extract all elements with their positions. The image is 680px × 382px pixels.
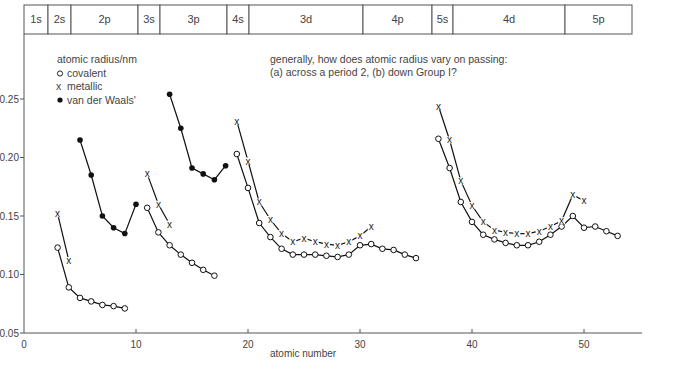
open-circle-marker (380, 246, 386, 252)
x-marker: x (335, 240, 340, 251)
open-circle-marker (156, 230, 162, 236)
open-circle-marker (346, 252, 352, 258)
filled-circle-marker (167, 92, 173, 98)
open-circle-marker (503, 240, 509, 246)
open-circle-marker (514, 242, 520, 248)
open-circle-marker (402, 252, 408, 258)
open-circle-marker (570, 213, 576, 219)
header-label-1s: 1s (30, 13, 42, 25)
x-tick-label: 20 (242, 339, 254, 350)
x-marker: x (369, 221, 374, 232)
open-circle-marker (447, 165, 453, 171)
orbital-header-row: 1s2s2p3s3p4s3d4p5s4d5p (24, 5, 632, 34)
open-circle-marker (604, 228, 610, 234)
header-label-3p: 3p (187, 13, 199, 25)
open-circle-marker (469, 219, 475, 225)
header-label-3s: 3s (143, 13, 155, 25)
x-axis-label: atomic number (270, 348, 337, 359)
open-circle-marker (536, 239, 542, 245)
open-circle-marker (100, 302, 106, 308)
question-line-1: generally, how does atomic radius vary o… (270, 53, 507, 65)
x-tick-label: 50 (578, 339, 590, 350)
series-line (237, 121, 371, 245)
open-circle-marker (548, 232, 554, 238)
x-tick-label: 0 (21, 339, 27, 350)
x-marker: x (503, 227, 508, 238)
open-circle-marker (167, 242, 173, 248)
open-circle-marker (55, 245, 61, 251)
header-label-4p: 4p (391, 13, 403, 25)
plot-area: xxxxxxxxxxxxxxxxxxxxxxxxxxxxxxxx (54, 92, 620, 312)
open-circle-marker (66, 285, 72, 291)
filled-circle-marker (212, 177, 218, 183)
open-circle-marker (234, 151, 240, 157)
open-circle-marker (357, 242, 363, 248)
legend-title: atomic radius/nm (57, 53, 137, 65)
x-marker: x (458, 175, 463, 186)
open-circle-marker (492, 237, 498, 243)
open-circle-marker (268, 234, 274, 240)
x-marker: x (156, 199, 161, 210)
x-marker: x (234, 116, 239, 127)
header-label-3d: 3d (300, 13, 312, 25)
y-ticks: 0.050.100.150.200.25 (0, 94, 24, 339)
filled-circle-marker (189, 165, 195, 171)
open-circle-marker (77, 295, 83, 301)
x-tick-label: 30 (354, 339, 366, 350)
open-circle-icon (57, 71, 62, 76)
header-label-5p: 5p (592, 13, 604, 25)
x-ticks: 01020304050 (21, 329, 590, 350)
filled-circle-marker (223, 163, 229, 169)
filled-circle-icon (57, 97, 62, 102)
filled-circle-marker (100, 213, 106, 219)
open-circle-marker (290, 252, 296, 258)
x-tick-label: 10 (130, 339, 142, 350)
x-marker: x (548, 221, 553, 232)
x-marker: x (346, 236, 351, 247)
question-line-2: (a) across a period 2, (b) down Group I? (270, 66, 457, 78)
filled-circle-marker (111, 225, 117, 231)
filled-circle-marker (178, 125, 184, 131)
open-circle-marker (144, 205, 150, 211)
x-marker: x (526, 228, 531, 239)
open-circle-marker (178, 252, 184, 258)
x-marker: x (257, 196, 262, 207)
legend-item-metallic: metallic (67, 80, 103, 92)
legend: atomic radius/nm covalent x metallic van… (56, 53, 137, 106)
series-covalent (55, 136, 621, 311)
open-circle-marker (279, 246, 285, 252)
y-tick-label: 0.25 (0, 94, 19, 105)
filled-circle-marker (122, 231, 128, 237)
x-marker: x (537, 226, 542, 237)
x-marker-icon: x (56, 80, 62, 92)
open-circle-marker (480, 232, 486, 238)
x-marker: x (447, 134, 452, 145)
y-tick-label: 0.20 (0, 152, 19, 163)
x-tick-label: 40 (466, 339, 478, 350)
legend-item-covalent: covalent (67, 67, 106, 79)
open-circle-marker (592, 224, 598, 230)
atomic-radius-chart: 1s2s2p3s3p4s3d4p5s4d5p 0.050.100.150.200… (0, 0, 680, 382)
open-circle-marker (256, 220, 262, 226)
x-marker: x (559, 215, 564, 226)
open-circle-marker (525, 242, 531, 248)
y-tick-label: 0.15 (0, 211, 19, 222)
x-marker: x (302, 233, 307, 244)
x-marker: x (313, 236, 318, 247)
series-vanderwaals (77, 92, 228, 237)
x-marker: x (582, 195, 587, 206)
open-circle-marker (111, 303, 117, 309)
header-label-4s: 4s (232, 13, 244, 25)
x-marker: x (290, 236, 295, 247)
open-circle-marker (212, 273, 218, 279)
open-circle-marker (368, 241, 374, 247)
open-circle-marker (335, 254, 341, 260)
x-marker: x (514, 228, 519, 239)
header-label-4d: 4d (503, 13, 515, 25)
open-circle-marker (615, 233, 621, 239)
open-circle-marker (413, 255, 419, 261)
open-circle-marker (324, 253, 330, 259)
x-marker: x (470, 200, 475, 211)
x-marker: x (324, 239, 329, 250)
filled-circle-marker (133, 202, 139, 208)
